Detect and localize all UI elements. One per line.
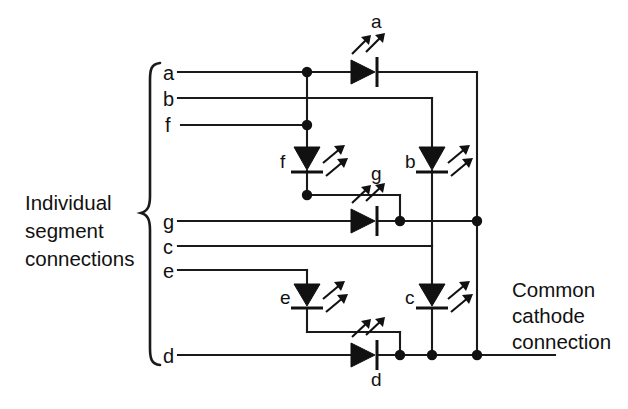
dot-f-cathode [302,190,312,200]
pin-label-g: g [163,211,174,233]
led-b-emission-rays [448,145,473,176]
led-g-label: g [371,163,382,184]
pin-label-f: f [165,114,171,136]
led-d-emission-rays [352,317,385,337]
pin-label-a: a [163,62,175,84]
dot-d-bus [472,350,482,360]
led-f-label: f [280,151,286,172]
led-a-triangle [351,60,375,84]
segment-rails [178,72,555,355]
pin-label-e: e [163,260,174,282]
led-f: f [280,145,348,176]
individual-segment-connections-caption: Individual segment connections [25,191,134,270]
led-e-label: e [280,287,291,308]
caption-right-line-3: connection [512,330,611,353]
pin-labels: a b f g c e d [163,62,175,367]
common-cathode-connection-caption: Common cathode connection [512,278,611,353]
dot-d-anode-tap [395,350,405,360]
led-g-triangle [351,209,375,233]
led-g: g [351,163,385,236]
led-c-triangle [419,284,445,306]
led-f-emission-rays [323,145,348,176]
led-c-emission-rays [448,281,473,312]
junction-dots [302,67,482,360]
caption-right-line-2: cathode [512,304,585,327]
led-b: b [405,145,473,176]
dot-f-branch [302,120,312,130]
led-d-label: d [371,369,382,390]
caption-left-line-3: connections [25,247,134,270]
caption-right-line-1: Common [512,278,595,301]
led-e-triangle [294,284,320,306]
led-e: e [280,281,348,312]
led-d-triangle [351,343,375,367]
led-a: a [351,11,385,87]
led-a-emission-rays [352,33,385,54]
led-d: d [351,317,385,390]
dot-a-branch [302,67,312,77]
dot-g-anode-tap [395,216,405,226]
pin-label-b: b [163,88,174,110]
led-b-label: b [405,151,416,172]
led-f-triangle [294,147,320,170]
caption-left-line-2: segment [25,219,104,242]
dot-d-b-column [427,350,437,360]
pin-label-d: d [163,345,174,367]
led-b-triangle [419,147,445,170]
caption-left-line-1: Individual [25,191,112,214]
led-e-emission-rays [323,281,348,312]
circuit-diagram: Individual segment connections a b f g c… [0,0,628,409]
dot-g-bus [472,216,482,226]
led-g-emission-rays [352,183,385,203]
seven-segment-schematic: Individual segment connections a b f g c… [0,0,628,409]
led-a-label: a [371,11,382,32]
pin-label-c: c [163,236,173,258]
segment-brace [141,63,160,365]
led-c-label: c [405,287,415,308]
led-c: c [405,281,473,312]
